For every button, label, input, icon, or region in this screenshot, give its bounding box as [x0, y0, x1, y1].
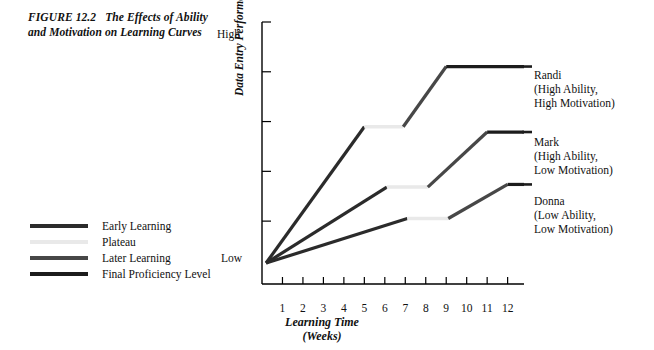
- x-tick-label-9: 9: [436, 302, 456, 314]
- x-axis-ticks: [282, 277, 507, 284]
- annotation-leader-lines: [522, 67, 532, 185]
- series-lines: [266, 67, 524, 264]
- series-annotation-randi-line2: (High Ability,: [534, 82, 615, 96]
- x-tick-label-2: 2: [293, 302, 313, 314]
- x-tick-label-7: 7: [395, 302, 415, 314]
- series-annotation-donna: Donna (Low Ability, Low Motivation): [534, 194, 613, 236]
- y-axis-low-label: Low: [221, 252, 242, 264]
- segment-later-learning: [403, 67, 446, 127]
- series-randi: [266, 67, 524, 264]
- segment-later-learning: [448, 184, 507, 218]
- x-axis-title-line1: Learning Time: [242, 315, 402, 329]
- y-axis-title: Data Entry Performance Level: [233, 78, 245, 96]
- series-annotation-donna-name: Donna: [534, 194, 613, 208]
- series-annotation-mark: Mark (High Ability, Low Motivation): [534, 135, 613, 177]
- x-axis-title: Learning Time (Weeks): [242, 315, 402, 343]
- x-tick-label-8: 8: [416, 302, 436, 314]
- segment-early-learning: [266, 187, 387, 263]
- series-annotation-randi-line3: High Motivation): [534, 96, 615, 110]
- x-tick-label-1: 1: [272, 302, 292, 314]
- x-axis-title-line2: (Weeks): [242, 329, 402, 343]
- x-tick-label-10: 10: [457, 302, 477, 314]
- y-axis-ticks: [262, 22, 271, 221]
- series-donna: [266, 184, 524, 263]
- series-annotation-randi-name: Randi: [534, 68, 615, 82]
- x-tick-label-6: 6: [375, 302, 395, 314]
- series-annotation-donna-line2: (Low Ability,: [534, 208, 613, 222]
- segment-early-learning: [266, 219, 407, 264]
- x-tick-label-3: 3: [313, 302, 333, 314]
- series-annotation-mark-line2: (High Ability,: [534, 149, 613, 163]
- x-tick-label-12: 12: [498, 302, 518, 314]
- x-tick-label-4: 4: [334, 302, 354, 314]
- series-annotation-mark-name: Mark: [534, 135, 613, 149]
- series-annotation-randi: Randi (High Ability, High Motivation): [534, 68, 615, 110]
- segment-later-learning: [428, 132, 487, 187]
- segment-early-learning: [266, 127, 364, 263]
- x-tick-label-11: 11: [477, 302, 497, 314]
- series-annotation-donna-line3: Low Motivation): [534, 222, 613, 236]
- x-tick-label-5: 5: [354, 302, 374, 314]
- series-annotation-mark-line3: Low Motivation): [534, 163, 613, 177]
